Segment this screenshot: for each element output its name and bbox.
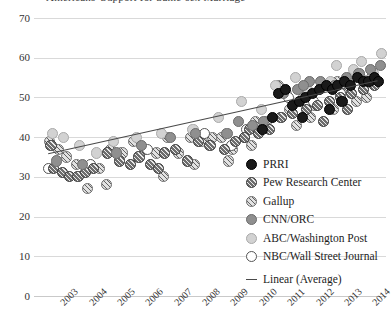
x-axis: 2003200420052006200720082009201020112012…	[34, 296, 386, 323]
plot-area	[34, 18, 386, 296]
y-axis-tick-label: 50	[4, 92, 30, 103]
y-axis-tick-label: 30	[4, 171, 30, 182]
y-axis-tick-label: 0	[4, 291, 30, 302]
y-axis-tick-label: 60	[4, 52, 30, 63]
trendline	[48, 81, 377, 154]
y-axis-tick-label: 10	[4, 251, 30, 262]
y-axis-tick-label: 20	[4, 211, 30, 222]
chart-title: Americans' Support for Same-sex Marriage	[46, 0, 346, 3]
y-axis: 010203040506070	[0, 18, 30, 296]
y-axis-tick-label: 70	[4, 13, 30, 24]
y-axis-tick-label: 40	[4, 132, 30, 143]
chart-container: Americans' Support for Same-sex Marriage…	[0, 0, 391, 323]
trendline-svg	[34, 18, 386, 296]
